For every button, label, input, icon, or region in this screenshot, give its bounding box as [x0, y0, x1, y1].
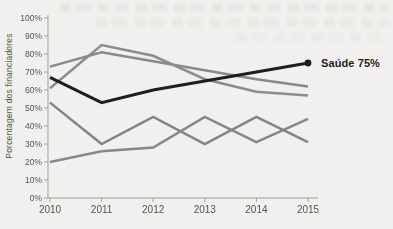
y-tick-label: 0%: [30, 193, 43, 203]
series-line-saude: [50, 63, 308, 103]
series-endpoint-dot: [305, 60, 312, 67]
x-tick-label: 2014: [245, 204, 268, 215]
chart-svg: 0%10%20%30%40%50%60%70%80%90%100%2010201…: [0, 0, 393, 229]
scanned-page: 0%10%20%30%40%50%60%70%80%90%100%2010201…: [0, 0, 393, 229]
x-tick-label: 2015: [297, 204, 320, 215]
y-tick-label: 100%: [20, 13, 42, 23]
y-tick-label: 40%: [25, 121, 42, 131]
y-tick-label: 70%: [25, 67, 42, 77]
y-tick-label: 10%: [25, 175, 42, 185]
x-tick-label: 2013: [194, 204, 217, 215]
x-tick-label: 2010: [39, 204, 62, 215]
y-tick-label: 90%: [25, 31, 42, 41]
y-tick-label: 30%: [25, 139, 42, 149]
y-axis-title: Porcentagem dos financiadores: [4, 33, 14, 158]
series-line-context: [50, 103, 308, 144]
y-tick-label: 50%: [25, 103, 42, 113]
x-tick-label: 2012: [142, 204, 165, 215]
y-tick-label: 80%: [25, 49, 42, 59]
y-tick-label: 60%: [25, 85, 42, 95]
series-end-annotation: Saúde 75%: [321, 57, 380, 69]
x-tick-label: 2011: [91, 204, 113, 215]
y-tick-label: 20%: [25, 157, 42, 167]
